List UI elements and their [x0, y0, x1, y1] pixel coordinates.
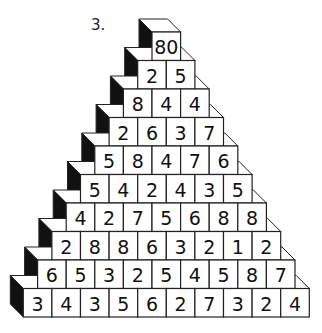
pyramid-cell: 80 [152, 32, 181, 61]
pyramid-cell: 5 [109, 289, 138, 318]
cell-value: 8 [117, 236, 129, 258]
pyramid-cell: 5 [95, 146, 124, 175]
pyramid-cell: 4 [109, 175, 138, 204]
pyramid-cell: 5 [224, 175, 253, 204]
cell-value: 5 [117, 293, 129, 315]
cell-value: 4 [189, 264, 201, 286]
pyramid-cell: 7 [181, 146, 210, 175]
cell-value: 3 [232, 293, 244, 315]
pyramid-cell: 5 [166, 61, 195, 90]
pyramid-cell: 2 [138, 61, 167, 90]
cell-value: 5 [74, 264, 86, 286]
cell-value: 4 [175, 179, 187, 201]
pyramid-cell: 6 [138, 232, 167, 261]
pyramid-cell: 4 [281, 289, 310, 318]
cell-value: 2 [117, 122, 129, 144]
cell-value: 5 [175, 65, 187, 87]
pyramid-cell: 2 [123, 260, 152, 289]
cell-value: 4 [289, 293, 301, 315]
block-pyramid: 8025844263758476542435427568828863212653… [0, 0, 322, 333]
cell-value: 4 [160, 93, 172, 115]
cell-value: 6 [189, 207, 201, 229]
pyramid-cell: 5 [66, 260, 95, 289]
pyramid-cell: 2 [95, 203, 124, 232]
cell-value: 8 [246, 207, 258, 229]
cell-value: 3 [89, 293, 101, 315]
cell-value: 7 [203, 293, 215, 315]
cell-value: 7 [275, 264, 287, 286]
pyramid-cell: 1 [224, 232, 253, 261]
pyramid-cell: 4 [152, 146, 181, 175]
cell-value: 2 [175, 293, 187, 315]
cell-value: 2 [146, 65, 158, 87]
cell-value: 3 [103, 264, 115, 286]
pyramid-cell: 8 [238, 203, 267, 232]
cell-value: 2 [132, 264, 144, 286]
cell-value: 5 [217, 264, 229, 286]
pyramid-cell: 4 [181, 260, 210, 289]
pyramid-cell: 3 [23, 289, 52, 318]
cell-value: 4 [117, 179, 129, 201]
pyramid-cell: 8 [209, 203, 238, 232]
cell-value: 4 [189, 93, 201, 115]
pyramid-cell: 8 [123, 89, 152, 118]
cell-value: 5 [232, 179, 244, 201]
cell-value: 8 [89, 236, 101, 258]
pyramid-cell: 3 [81, 289, 110, 318]
problem-number: 3. [91, 16, 105, 34]
pyramid-cell: 5 [152, 203, 181, 232]
cell-value: 4 [160, 150, 172, 172]
pyramid-cell: 4 [66, 203, 95, 232]
cell-value: 6 [217, 150, 229, 172]
cell-value: 7 [189, 150, 201, 172]
cell-value: 5 [160, 264, 172, 286]
cell-value: 5 [103, 150, 115, 172]
pyramid-cell: 5 [152, 260, 181, 289]
pyramid-cell: 8 [81, 232, 110, 261]
pyramid-cell: 2 [52, 232, 81, 261]
cell-value: 8 [132, 93, 144, 115]
pyramid-cell: 8 [123, 146, 152, 175]
pyramid-cell: 3 [224, 289, 253, 318]
pyramid-cell: 2 [195, 232, 224, 261]
pyramid-cell: 6 [181, 203, 210, 232]
number-pyramid-figure: 3. 8025844263758476542435427568828863212… [0, 0, 322, 333]
pyramid-cell: 8 [238, 260, 267, 289]
cell-value: 7 [132, 207, 144, 229]
cell-value: 6 [146, 236, 158, 258]
pyramid-cell: 2 [109, 118, 138, 147]
pyramid-cell: 4 [152, 89, 181, 118]
pyramid-cell: 7 [266, 260, 295, 289]
cell-value: 2 [260, 293, 272, 315]
cell-value: 2 [203, 236, 215, 258]
pyramid-cell: 7 [195, 118, 224, 147]
pyramid-cell: 4 [166, 175, 195, 204]
cell-value: 8 [217, 207, 229, 229]
cell-value: 2 [146, 179, 158, 201]
pyramid-cell: 3 [195, 175, 224, 204]
cell-value: 2 [60, 236, 72, 258]
pyramid-cell: 2 [252, 232, 281, 261]
pyramid-cell: 6 [138, 289, 167, 318]
pyramid-cell: 7 [123, 203, 152, 232]
cell-value: 4 [74, 207, 86, 229]
cell-value: 80 [154, 36, 178, 58]
pyramid-cell: 8 [109, 232, 138, 261]
cell-value: 4 [60, 293, 72, 315]
pyramid-cell: 5 [81, 175, 110, 204]
pyramid-cell: 3 [166, 118, 195, 147]
cell-value: 7 [203, 122, 215, 144]
cell-value: 8 [246, 264, 258, 286]
pyramid-cell: 5 [209, 260, 238, 289]
pyramid-cell: 2 [138, 175, 167, 204]
pyramid-cell: 3 [95, 260, 124, 289]
cell-value: 5 [89, 179, 101, 201]
pyramid-cell: 4 [181, 89, 210, 118]
cell-value: 5 [160, 207, 172, 229]
cell-value: 6 [146, 293, 158, 315]
pyramid-cell: 6 [209, 146, 238, 175]
pyramid-cell: 6 [138, 118, 167, 147]
cell-value: 2 [260, 236, 272, 258]
cell-value: 3 [175, 236, 187, 258]
cell-value: 1 [232, 236, 244, 258]
